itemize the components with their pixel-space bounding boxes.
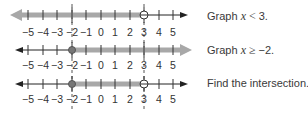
svg-text:3: 3 bbox=[141, 59, 147, 71]
svg-text:0: 0 bbox=[98, 26, 104, 38]
svg-text:3: 3 bbox=[141, 26, 147, 38]
svg-text:−3: −3 bbox=[51, 93, 63, 105]
arrow-left-icon bbox=[15, 47, 23, 53]
shaded-region bbox=[18, 13, 144, 18]
svg-text:4: 4 bbox=[156, 59, 162, 71]
arrow-right-shaded-icon bbox=[180, 44, 192, 56]
svg-text:2: 2 bbox=[127, 59, 133, 71]
number-line-3: −5 −4 −3 −2 −1 0 1 2 3 4 5 bbox=[15, 76, 188, 105]
number-line-1: −5 −4 −3 −2 −1 0 1 2 3 4 5 bbox=[10, 7, 188, 38]
closed-circle-at-neg2 bbox=[69, 81, 76, 88]
caption-text: Find the intersection. bbox=[207, 77, 308, 89]
svg-text:−1: −1 bbox=[80, 59, 92, 71]
svg-text:−5: −5 bbox=[22, 59, 34, 71]
caption-row-2: Graph x ≥ −2. bbox=[207, 43, 274, 58]
tick-labels: −5 −4 −3 −2 −1 0 1 2 3 4 5 bbox=[22, 93, 176, 105]
svg-text:5: 5 bbox=[170, 93, 176, 105]
caption-value: −2. bbox=[259, 44, 275, 56]
caption-relation: < bbox=[246, 9, 259, 23]
caption-relation: ≥ bbox=[246, 43, 259, 57]
svg-text:−4: −4 bbox=[37, 26, 49, 38]
arrow-left-shaded-icon bbox=[10, 9, 22, 21]
number-line-2: −5 −4 −3 −2 −1 0 1 2 3 4 5 bbox=[15, 42, 192, 71]
closed-circle-at-neg2 bbox=[69, 47, 76, 54]
svg-text:1: 1 bbox=[112, 26, 118, 38]
caption-prefix: Graph bbox=[207, 44, 241, 56]
svg-text:1: 1 bbox=[112, 59, 118, 71]
svg-text:0: 0 bbox=[98, 59, 104, 71]
svg-text:−2: −2 bbox=[66, 59, 78, 71]
svg-text:−2: −2 bbox=[66, 26, 78, 38]
svg-text:0: 0 bbox=[98, 93, 104, 105]
caption-row-1: Graph x < 3. bbox=[207, 9, 268, 24]
svg-text:−5: −5 bbox=[22, 26, 34, 38]
arrow-right-icon bbox=[180, 12, 188, 18]
shaded-region bbox=[72, 82, 144, 87]
svg-text:−1: −1 bbox=[80, 26, 92, 38]
tick-labels: −5 −4 −3 −2 −1 0 1 2 3 4 5 bbox=[22, 59, 176, 71]
svg-text:4: 4 bbox=[156, 93, 162, 105]
tick-labels: −5 −4 −3 −2 −1 0 1 2 3 4 5 bbox=[22, 26, 176, 38]
svg-text:−2: −2 bbox=[66, 93, 78, 105]
arrow-left-icon bbox=[15, 81, 23, 87]
svg-text:3: 3 bbox=[141, 93, 147, 105]
svg-text:−4: −4 bbox=[37, 93, 49, 105]
svg-text:−3: −3 bbox=[51, 59, 63, 71]
svg-text:−3: −3 bbox=[51, 26, 63, 38]
svg-text:4: 4 bbox=[156, 26, 162, 38]
caption-value: 3. bbox=[259, 10, 268, 22]
arrow-right-icon bbox=[180, 81, 188, 87]
svg-text:5: 5 bbox=[170, 59, 176, 71]
svg-text:5: 5 bbox=[170, 26, 176, 38]
svg-text:−4: −4 bbox=[37, 59, 49, 71]
caption-prefix: Graph bbox=[207, 10, 241, 22]
shaded-region bbox=[72, 48, 182, 53]
svg-text:−1: −1 bbox=[80, 93, 92, 105]
svg-text:1: 1 bbox=[112, 93, 118, 105]
svg-text:2: 2 bbox=[127, 26, 133, 38]
caption-row-3: Find the intersection. bbox=[207, 77, 308, 89]
svg-text:2: 2 bbox=[127, 93, 133, 105]
svg-text:−5: −5 bbox=[22, 93, 34, 105]
